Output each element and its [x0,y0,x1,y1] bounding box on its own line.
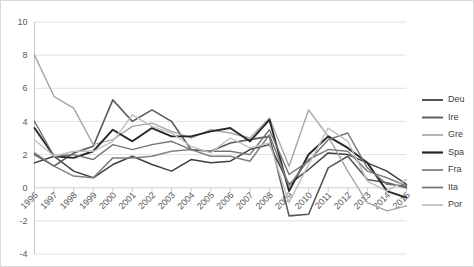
x-axis-tick-label: 2011 [313,190,334,211]
legend: DeuIreGreSpaFraItaPor [422,94,465,209]
x-axis-tick-label: 2002 [136,190,157,211]
legend-item-deu[interactable]: Deu [422,94,465,104]
legend-label-deu: Deu [448,94,465,104]
legend-label-ita: Ita [448,182,458,192]
y-axis-tick-label: 0 [22,183,27,193]
x-axis-tick-label: 2008 [254,190,275,211]
x-axis-tick-label: 2012 [332,190,353,211]
y-axis-tick-label: 6 [22,83,27,93]
legend-item-gre[interactable]: Gre [422,129,463,139]
x-axis-tick-label: 2004 [175,190,196,211]
legend-label-ire: Ire [448,112,459,122]
chart-container: -4-20246810 1996199719981999200020012002… [0,0,474,267]
y-axis-tick-label: 2 [22,150,27,160]
line-chart: -4-20246810 1996199719981999200020012002… [1,1,474,267]
x-axis-tick-label: 2000 [97,190,118,211]
x-axis-tick-label: 2005 [195,190,216,211]
x-axis-tick-label: 2006 [214,190,235,211]
x-axis-tick-label: 2007 [234,190,255,211]
legend-label-spa: Spa [448,147,464,157]
y-axis-tick-label: 10 [17,17,27,27]
y-axis-tick-label: -4 [19,249,27,259]
legend-label-fra: Fra [448,164,462,174]
x-axis-tick-label: 1999 [77,190,98,211]
legend-item-spa[interactable]: Spa [422,147,464,157]
legend-item-ire[interactable]: Ire [422,112,459,122]
legend-item-por[interactable]: Por [422,199,462,209]
x-axis-tick-label: 1998 [58,190,79,211]
legend-label-gre: Gre [448,129,463,139]
x-axis-tick-labels: 1996199719981999200020012002200320042005… [19,190,412,211]
legend-item-ita[interactable]: Ita [422,182,458,192]
y-axis-tick-label: 4 [22,117,27,127]
y-axis-tick-labels: -4-20246810 [17,17,27,259]
x-axis-tick-label: 2003 [156,190,177,211]
legend-item-fra[interactable]: Fra [422,164,462,174]
x-axis-tick-label: 1997 [38,190,59,211]
y-axis-tick-label: -2 [19,216,27,226]
legend-label-por: Por [448,199,462,209]
y-axis-tick-label: 8 [22,50,27,60]
x-axis-tick-label: 1996 [19,190,40,211]
x-axis-tick-label: 2001 [117,190,138,211]
